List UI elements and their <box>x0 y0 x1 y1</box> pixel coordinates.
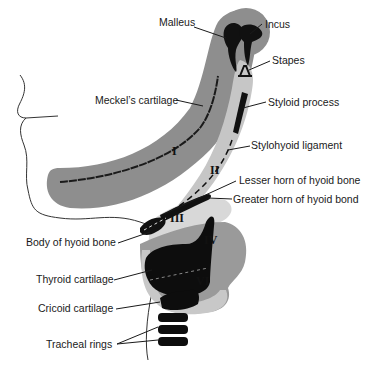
arch-numeral-1: I <box>172 144 177 158</box>
leader-tracheal-1 <box>117 327 158 344</box>
leader-tracheal-2 <box>117 340 158 344</box>
label-thyroid: Thyroid cartilage <box>36 273 114 285</box>
leader-body-hyoid <box>118 232 150 243</box>
arch-numeral-3: III <box>170 211 184 225</box>
pharyngeal-arch-diagram: I II III IV VI Malleus Incus Stapes Meck… <box>0 0 368 374</box>
label-lesser-horn: Lesser horn of hyoid bone <box>239 174 361 186</box>
label-stylohyoid: Stylohyoid ligament <box>251 139 342 151</box>
tracheal-ring-1 <box>158 313 188 322</box>
arch-numeral-2: II <box>210 163 220 177</box>
arch-numeral-6: VI <box>196 274 210 288</box>
label-tracheal: Tracheal rings <box>46 338 112 350</box>
arch-numeral-4: IV <box>204 233 218 247</box>
label-malleus: Malleus <box>159 16 195 28</box>
neck-outline <box>146 292 152 360</box>
tracheal-ring-3 <box>158 337 188 346</box>
label-stapes: Stapes <box>272 54 305 66</box>
tracheal-ring-2 <box>158 325 188 334</box>
label-styloid: Styloid process <box>268 96 339 108</box>
label-body-hyoid: Body of hyoid bone <box>26 236 116 248</box>
leader-cricoid <box>116 302 160 309</box>
label-cricoid: Cricoid cartilage <box>38 302 113 314</box>
label-meckels: Meckel’s cartilage <box>95 94 178 106</box>
label-incus: Incus <box>265 18 290 30</box>
label-greater-horn: Greater horn of hyoid bond <box>233 193 359 205</box>
